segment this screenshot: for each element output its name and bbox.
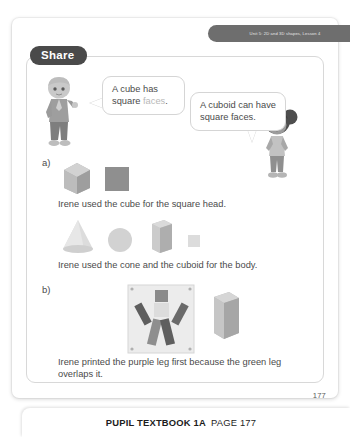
- footer-book-label: PUPIL TEXTBOOK 1A: [106, 417, 206, 428]
- cube-3d-shape: [64, 163, 90, 194]
- part-b-shapes: [126, 283, 246, 357]
- body-shapes-caption: Irene used the cone and the cuboid for t…: [58, 259, 298, 271]
- part-a-label: a): [42, 157, 50, 168]
- part-b-caption: Irene printed the purple leg first becau…: [58, 356, 290, 381]
- boy-speech-bubble: A cube has square faces.: [102, 76, 185, 115]
- part-a-shapes: [60, 158, 138, 194]
- footer-page-label: PAGE 177: [211, 417, 256, 428]
- share-section-badge: Share: [30, 46, 87, 65]
- cone-3d-shape: [63, 220, 93, 253]
- square-2d-shape: [105, 167, 129, 191]
- body-shapes-row: [60, 218, 210, 256]
- boy-character: [36, 74, 82, 154]
- circle-2d-shape: [108, 228, 132, 252]
- part-a-caption: Irene used the cube for the square head.: [58, 198, 298, 210]
- cuboid-3d-shape: [214, 292, 239, 339]
- boy-bubble-text-after: .: [165, 96, 168, 106]
- girl-speech-bubble: A cuboid can have square faces.: [190, 92, 286, 131]
- unit-tab: Unit 5: 2D and 3D shapes, Lesson 4: [208, 25, 350, 42]
- textbook-page: Unit 5: 2D and 3D shapes, Lesson 4 Share: [0, 0, 350, 437]
- page-number: 177: [313, 391, 326, 400]
- part-b-label: b): [42, 284, 50, 295]
- boy-bubble-highlight: faces: [143, 96, 165, 106]
- cuboid-3d-tall-shape: [152, 220, 172, 253]
- printed-figure-photo: [128, 285, 194, 353]
- square-2d-small-shape: [188, 235, 200, 247]
- footer-bar: PUPIL TEXTBOOK 1A PAGE 177: [22, 408, 350, 437]
